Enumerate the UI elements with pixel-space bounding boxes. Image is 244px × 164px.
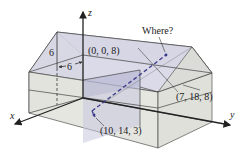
label-point: (10, 14, 3) [100, 125, 142, 137]
y-axis-label: y [229, 109, 235, 120]
label-ridge-start: (0, 0, 8) [88, 45, 120, 57]
point-10-14-3 [93, 114, 96, 117]
label-dim-width: 6 [67, 61, 72, 72]
label-dim-height: 6 [49, 47, 54, 58]
house-diagram: z x y (0, 0, 8) Where? (7, 18, 8) (10, 1… [0, 0, 244, 164]
point-where [165, 54, 168, 57]
x-axis-label: x [9, 110, 15, 121]
label-corner: (7, 18, 8) [176, 91, 213, 103]
z-axis-label: z [87, 7, 92, 18]
label-where: Where? [142, 25, 174, 36]
